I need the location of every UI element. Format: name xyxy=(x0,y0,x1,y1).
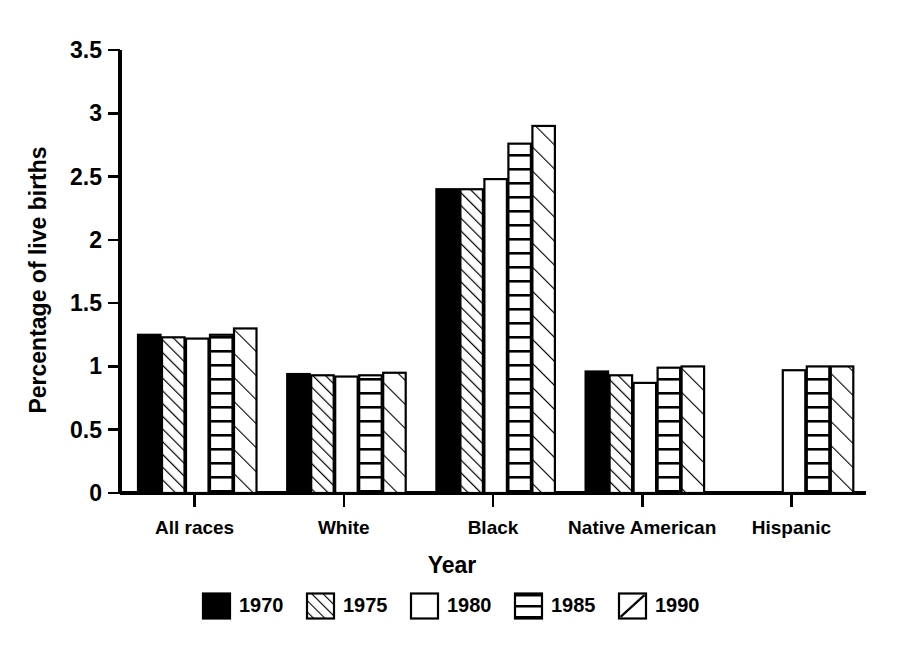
y-tick-label: 0 xyxy=(89,480,102,506)
legend-label-1980: 1980 xyxy=(447,594,492,616)
bar-white-1975 xyxy=(311,375,334,493)
legend-swatch-1980 xyxy=(411,594,438,619)
x-axis-title: Year xyxy=(428,552,477,578)
bar-white-1990 xyxy=(383,373,406,493)
bar-white-1985 xyxy=(359,375,382,493)
bar-white-1980 xyxy=(335,377,358,493)
bar-all-races-1975 xyxy=(162,337,185,493)
bar-native-american-1970 xyxy=(586,371,609,493)
bar-native-american-1985 xyxy=(658,368,681,493)
bar-hispanic-1980 xyxy=(783,370,806,493)
bar-black-1985 xyxy=(508,144,531,493)
bar-chart: 00.511.522.533.5 All racesWhiteBlackNati… xyxy=(0,0,900,651)
y-tick-label: 2 xyxy=(89,227,102,253)
x-category-label: White xyxy=(318,517,370,538)
legend-label-1975: 1975 xyxy=(343,594,388,616)
bar-all-races-1985 xyxy=(210,335,233,493)
y-tick-label: 2.5 xyxy=(70,164,102,190)
bar-hispanic-1990 xyxy=(831,366,854,493)
bar-all-races-1970 xyxy=(138,335,161,493)
y-tick-label: 3 xyxy=(89,100,102,126)
bar-native-american-1975 xyxy=(610,375,633,493)
x-category-label: All races xyxy=(155,517,234,538)
bar-black-1980 xyxy=(484,179,507,493)
bar-black-1975 xyxy=(460,189,483,493)
x-category-label: Black xyxy=(468,517,519,538)
bar-all-races-1990 xyxy=(234,328,257,493)
bar-all-races-1980 xyxy=(186,339,209,493)
y-tick-label: 1 xyxy=(89,353,102,379)
x-category-label: Native American xyxy=(568,517,716,538)
bar-black-1990 xyxy=(532,126,555,493)
chart-legend: 19701975198019851990 xyxy=(203,594,700,619)
y-axis-title: Percentage of live births xyxy=(25,146,51,413)
bar-white-1970 xyxy=(287,374,310,493)
bar-native-american-1980 xyxy=(634,383,657,493)
legend-label-1990: 1990 xyxy=(655,594,700,616)
legend-swatch-1970 xyxy=(203,594,230,619)
legend-swatch-1975 xyxy=(307,594,334,619)
legend-label-1985: 1985 xyxy=(551,594,596,616)
x-category-label: Hispanic xyxy=(752,517,832,538)
y-tick-label: 0.5 xyxy=(70,417,102,443)
legend-label-1970: 1970 xyxy=(239,594,284,616)
y-tick-label: 3.5 xyxy=(70,37,102,63)
chart-container: 00.511.522.533.5 All racesWhiteBlackNati… xyxy=(0,0,900,651)
legend-swatch-1985 xyxy=(515,594,542,619)
bar-black-1970 xyxy=(436,189,459,493)
y-tick-label: 1.5 xyxy=(70,290,102,316)
bar-native-american-1990 xyxy=(682,366,705,493)
bar-hispanic-1985 xyxy=(807,366,830,493)
